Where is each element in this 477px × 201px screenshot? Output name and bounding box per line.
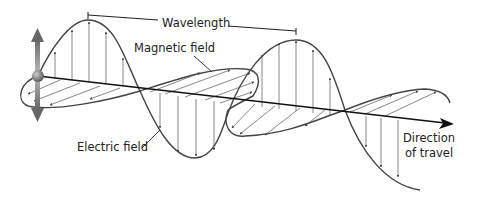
electric-field-wave bbox=[38, 20, 420, 190]
magnetic-field-wave bbox=[21, 69, 450, 137]
direction-label-line1: Direction bbox=[403, 131, 455, 145]
wavelength-label: Wavelength bbox=[162, 16, 230, 30]
magnetic-field-label: Magnetic field bbox=[134, 41, 215, 55]
electric-field-label: Electric field bbox=[77, 140, 148, 154]
direction-label-line2: of travel bbox=[405, 146, 453, 160]
em-wave-diagram: Wavelength Magnetic field Electric field… bbox=[0, 0, 477, 201]
arrowhead-right-icon bbox=[439, 118, 454, 129]
